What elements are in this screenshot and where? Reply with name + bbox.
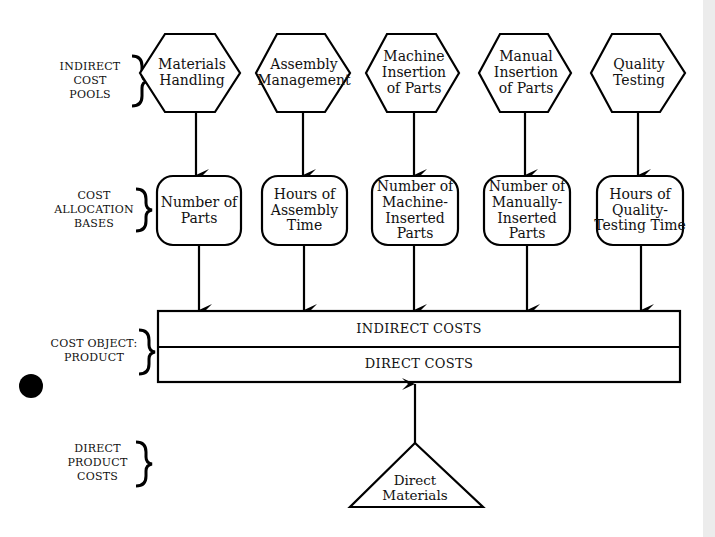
cost-pool-manual-insertion: Manual Insertion of Parts <box>482 40 570 106</box>
brace-allocation-bases <box>136 189 152 231</box>
cost-pool-materials-handling: Materials Handling <box>148 40 236 106</box>
base-manually-inserted-parts: Number of Manually- Inserted Parts <box>480 176 574 245</box>
base-hours-assembly-time: Hours of Assembly Time <box>262 176 347 245</box>
label-cost-object: COST OBJECT: PRODUCT <box>48 333 140 369</box>
cost-pool-machine-insertion: Machine Insertion of Parts <box>370 40 458 106</box>
cost-pool-assembly-management: Assembly Management <box>256 40 352 106</box>
label-cost-allocation-bases: COST ALLOCATION BASES <box>50 187 138 233</box>
brace-cost-object <box>139 330 155 374</box>
label-indirect-cost-pools: INDIRECT COST POOLS <box>50 56 130 106</box>
base-machine-inserted-parts: Number of Machine- Inserted Parts <box>368 176 462 245</box>
direct-costs-row: DIRECT COSTS <box>158 347 680 382</box>
direct-materials-label: Direct Materials <box>370 470 460 506</box>
bullet-dot-icon <box>19 374 43 398</box>
base-quality-testing-time: Hours of Quality- Testing Time <box>593 176 687 245</box>
indirect-costs-row: INDIRECT COSTS <box>158 311 680 347</box>
brace-icons <box>132 56 155 486</box>
label-direct-product-costs: DIRECT PRODUCT COSTS <box>60 440 135 486</box>
base-number-of-parts: Number of Parts <box>157 176 241 245</box>
cost-pool-quality-testing: Quality Testing <box>595 40 683 106</box>
brace-direct-costs <box>136 442 152 486</box>
